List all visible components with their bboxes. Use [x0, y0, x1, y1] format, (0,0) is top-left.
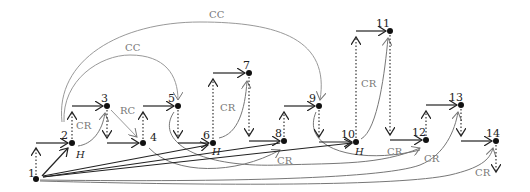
node-label-10: 10 [341, 128, 355, 141]
node-label-4: 4 [150, 131, 157, 144]
node-label-3: 3 [101, 92, 108, 105]
node-5 [175, 103, 181, 109]
node-label-8: 8 [275, 127, 282, 140]
node-label-11: 11 [376, 17, 390, 30]
label-cr-14: CR [475, 167, 491, 178]
label-cr-10-11: CR [361, 78, 377, 89]
label-cr-13: CR [424, 153, 440, 164]
label-cr-2-3: CR [76, 120, 92, 131]
node-label-7: 7 [243, 59, 250, 72]
label-cc-outer: CC [209, 9, 225, 20]
node-label-12: 12 [412, 126, 426, 139]
node-4 [140, 140, 146, 146]
cc-outer-edge [61, 22, 321, 122]
edge-labels: CC CC RC CR CR CR CR CR CR CR H H H [75, 9, 491, 178]
node-label-9: 9 [309, 92, 316, 105]
node-label-1: 1 [28, 167, 35, 180]
node-label-13: 13 [449, 91, 463, 104]
node-label-2: 2 [61, 129, 68, 142]
h-edges [42, 143, 352, 177]
label-h-2: H [75, 149, 85, 160]
label-cr-12: CR [387, 146, 403, 157]
node-label-14: 14 [486, 127, 500, 140]
label-cc-inner: CC [125, 42, 141, 53]
label-cr-6-7: CR [220, 102, 236, 113]
label-h-6: H [211, 146, 221, 157]
node-label-6: 6 [203, 129, 210, 142]
label-rc: RC [120, 105, 136, 116]
node-2 [69, 140, 75, 146]
node-9 [316, 103, 322, 109]
sequence-diagram: 1 2 3 4 5 6 7 8 9 10 11 12 13 14 CC CC R… [0, 0, 530, 192]
label-h-10: H [354, 146, 364, 157]
label-cr-8: CR [277, 155, 293, 166]
node-label-5: 5 [168, 92, 175, 105]
